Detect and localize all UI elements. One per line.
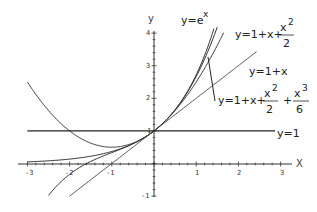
quad-label-num-sup: 2: [288, 17, 294, 27]
chart-canvas: -3 -2 -1 1 2 3 -1 2 3 4 1 y X y=e x y=1+…: [0, 0, 317, 212]
label-quad: y=1+x+ x 2 2: [235, 17, 294, 50]
cubic-label-den1: 2: [266, 103, 273, 116]
curve-cubic: [49, 27, 218, 195]
y-tick-labels: -1 2 3 4 1: [141, 29, 151, 200]
x-tick-label: -1: [106, 169, 114, 177]
y-axis-label: y: [148, 13, 154, 24]
cubic-label-sup1: 2: [272, 83, 278, 93]
y-tick-label: 4: [146, 29, 150, 37]
quad-label-prefix: y=1+x+: [235, 28, 283, 41]
x-tick-label: -3: [25, 169, 33, 177]
y-tick-label: 2: [146, 94, 150, 102]
cubic-label-prefix: y=1+x+: [218, 94, 266, 107]
x-axis-label: X: [296, 158, 303, 169]
curve-quad: [27, 33, 223, 147]
label-cubic: y=1+x+ x 2 2 + x 3 6: [218, 83, 309, 116]
label-lin: y=1+x: [249, 65, 288, 78]
quad-label-den: 2: [283, 37, 290, 50]
cubic-label-sup2: 3: [302, 83, 308, 93]
cubic-label-den2: 6: [296, 103, 303, 116]
quad-label-num: x: [280, 21, 287, 34]
x-tick-label: 2: [237, 169, 241, 177]
x-tick-label: 1: [195, 169, 199, 177]
cubic-label-plus: +: [283, 94, 292, 107]
exp-label-base: y=e: [181, 14, 204, 27]
label-exp: y=e x: [181, 9, 209, 27]
exp-label-sup: x: [203, 9, 209, 19]
x-tick-label: 3: [280, 169, 284, 177]
cubic-label-pointer: [208, 57, 215, 101]
cubic-label-num2: x: [294, 87, 301, 100]
cubic-label-num1: x: [264, 87, 271, 100]
curve-lin: [70, 52, 257, 196]
y-tick-label: 3: [146, 62, 150, 70]
y-tick-label: -1: [141, 192, 149, 200]
label-const: y=1: [277, 127, 300, 140]
